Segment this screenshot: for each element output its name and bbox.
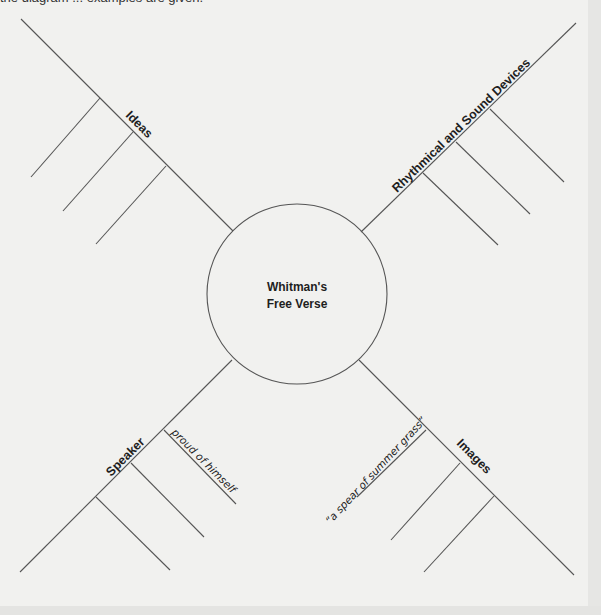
images-entry-line-3[interactable] (424, 496, 494, 572)
branch-rhythmical: Rhythmical and Sound Devices (361, 23, 576, 245)
ideas-entry-line-2[interactable] (63, 132, 133, 211)
rhythmical-label: Rhythmical and Sound Devices (389, 56, 533, 195)
images-entry-line-2[interactable] (391, 463, 460, 540)
center-title-line2: Free Verse (267, 297, 328, 311)
rhythmical-entry-line-3[interactable] (423, 173, 498, 245)
speaker-entry-line-3[interactable] (96, 497, 170, 570)
center-title-line1: Whitman's (267, 280, 328, 294)
ideas-label: Ideas (123, 108, 156, 141)
ideas-main-line (21, 19, 233, 231)
rhythmical-entry-line-2[interactable] (456, 142, 530, 214)
branch-ideas: Ideas (21, 19, 233, 244)
ideas-entry-line-1[interactable] (31, 98, 100, 177)
ideas-entry-line-3[interactable] (96, 166, 166, 244)
center-node: Whitman's Free Verse (207, 204, 387, 384)
images-main-line (359, 360, 574, 575)
speaker-entry-line-1[interactable] (164, 430, 236, 504)
branch-speaker: Speaker proud of himself (20, 360, 240, 572)
speaker-entry-line-2[interactable] (131, 463, 204, 537)
images-label: Images (454, 436, 494, 476)
speaker-entry-1-text: proud of himself (169, 425, 241, 497)
rhythmical-entry-line-1[interactable] (490, 109, 564, 182)
center-circle (207, 204, 387, 384)
images-entry-1-text: “a spear of summer grass” (323, 414, 429, 526)
branch-images: Images “a spear of summer grass” (323, 360, 574, 575)
spider-diagram: Whitman's Free Verse Ideas Rhythmical an… (0, 0, 601, 615)
